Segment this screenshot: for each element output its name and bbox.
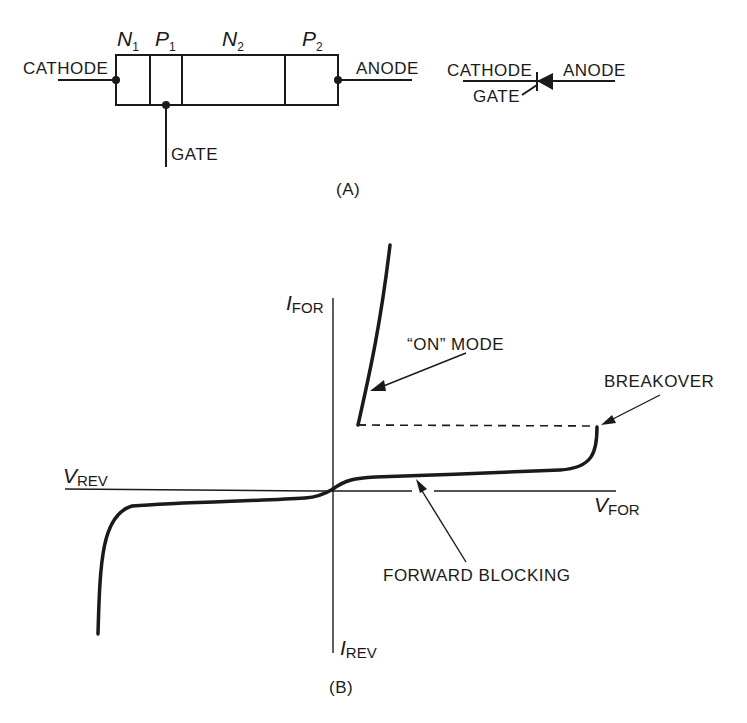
figure-a-caption: (A) [336, 180, 360, 199]
gate-lead-symbol [522, 85, 537, 95]
scr-symbol: CATHODE ANODE GATE [447, 61, 626, 106]
axis-label-i-for: IFOR [286, 291, 324, 316]
breakover-label: BREAKOVER [604, 372, 714, 391]
figure-b-caption: (B) [329, 678, 353, 697]
region-label-n1: N1 [117, 27, 139, 54]
cathode-terminal-dot [112, 76, 120, 84]
breakover-arrowhead-icon [601, 415, 616, 425]
on-mode-arrow-line [376, 353, 466, 389]
anode-terminal-dot [334, 76, 342, 84]
axis-label-v-for: VFOR [594, 493, 640, 518]
forward-blocking-label: FORWARD BLOCKING [383, 566, 570, 585]
voltage-axis-left [65, 489, 312, 491]
thyristor-figure: N1 P1 N2 P2 CATHODE ANODE GATE (A) CATHO… [0, 0, 747, 723]
region-label-n2: N2 [222, 27, 244, 54]
region-label-p2: P2 [302, 27, 323, 54]
diode-triangle-icon [537, 73, 553, 90]
axis-label-i-rev: IREV [340, 636, 377, 661]
gate-label: GATE [171, 145, 218, 164]
figure-b-characteristic: IFOR IREV VREV VFOR “ON” MODE BREAKOVER … [63, 245, 714, 697]
forward-blocking-curve [333, 427, 597, 489]
breakover-jump-dashed [358, 425, 597, 426]
region-label-p1: P1 [155, 27, 176, 54]
cathode-label: CATHODE [23, 59, 108, 78]
gate-terminal-dot [162, 101, 170, 109]
anode-label: ANODE [356, 59, 419, 78]
on-mode-label: “ON” MODE [407, 335, 504, 354]
forward-blocking-arrowhead-icon [416, 479, 427, 493]
figure-a-structure: N1 P1 N2 P2 CATHODE ANODE GATE (A) [23, 27, 419, 199]
forward-blocking-arrow-line [419, 486, 466, 562]
on-mode-curve [358, 245, 390, 425]
symbol-gate-label: GATE [473, 87, 520, 106]
breakover-arrow-line [607, 395, 660, 422]
reverse-characteristic-curve [98, 489, 333, 634]
on-mode-arrowhead-icon [370, 380, 386, 391]
symbol-anode-label: ANODE [563, 61, 626, 80]
symbol-cathode-label: CATHODE [447, 61, 532, 80]
axis-label-v-rev: VREV [63, 464, 108, 489]
